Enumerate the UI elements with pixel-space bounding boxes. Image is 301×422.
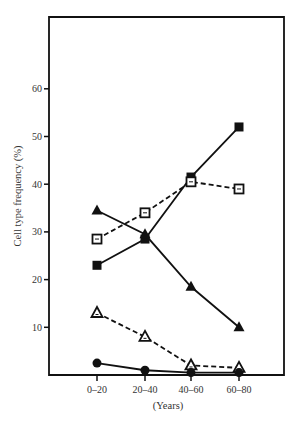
x-tick-label: 20–40 (133, 384, 158, 395)
series-line (97, 313, 239, 368)
y-tick-label: 40 (32, 179, 42, 190)
open-triangle-marker (92, 307, 103, 317)
series-open-square (93, 177, 244, 243)
filled-triangle-marker (92, 204, 103, 214)
open-triangle-marker (186, 359, 197, 369)
plot-frame (49, 17, 284, 375)
filled-circle-marker (187, 368, 196, 377)
x-tick-label: 40–60 (179, 384, 204, 395)
y-tick-label: 30 (32, 226, 42, 237)
y-tick-label: 10 (32, 322, 42, 333)
filled-circle-marker (93, 359, 102, 368)
series-line (97, 182, 239, 239)
chart-axes: 1020304050600–2020–4040–6060–80 (32, 17, 284, 395)
filled-circle-marker (141, 366, 150, 375)
y-axis-title: Cell type frequency (%) (12, 145, 24, 247)
filled-square-marker (93, 261, 102, 270)
chart-series (92, 122, 245, 377)
y-tick-label: 20 (32, 274, 42, 285)
series-filled-triangle (92, 204, 245, 331)
x-axis-title: (Years) (153, 400, 184, 412)
line-chart: 1020304050600–2020–4040–6060–80 Cell typ… (0, 0, 301, 422)
filled-triangle-marker (234, 321, 245, 331)
x-tick-label: 60–80 (227, 384, 252, 395)
series-open-triangle (92, 307, 245, 372)
series-line (97, 363, 239, 373)
series-filled-square (93, 122, 244, 269)
y-tick-label: 60 (32, 83, 42, 94)
series-line (97, 127, 239, 265)
filled-square-marker (235, 122, 244, 131)
filled-circle-marker (235, 368, 244, 377)
x-tick-label: 0–20 (87, 384, 107, 395)
y-tick-label: 50 (32, 131, 42, 142)
